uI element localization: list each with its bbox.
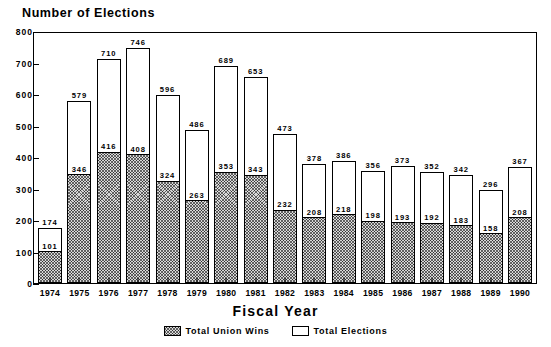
- bar-group: 653343: [244, 33, 268, 283]
- chart-legend: Total Union WinsTotal Elections: [0, 326, 551, 336]
- bar-value-label-wins: 208: [511, 208, 528, 217]
- bar-value-label-total: 689: [219, 56, 234, 65]
- x-axis-tick-label: 1982: [273, 288, 297, 298]
- legend-swatch-hatched: [164, 326, 181, 336]
- x-axis-tick-mark: [138, 278, 139, 283]
- bar-value-label-wins: 101: [41, 242, 58, 251]
- bar-value-label-total: 596: [160, 85, 175, 94]
- x-axis-tick-mark: [255, 278, 256, 283]
- bar-value-label-wins: 193: [394, 213, 411, 222]
- x-axis-tick-mark: [402, 278, 403, 283]
- bar-group: 352192: [420, 33, 444, 283]
- x-axis-tick-label: 1986: [391, 288, 415, 298]
- x-axis-tick-mark: [373, 278, 374, 283]
- bar-union-wins: 232: [273, 210, 297, 283]
- x-axis-tick-label: 1985: [361, 288, 385, 298]
- x-axis-tick-mark: [490, 278, 491, 283]
- bar-union-wins: 208: [508, 217, 532, 283]
- bar-value-label-wins: 416: [100, 142, 117, 151]
- y-axis-tick-label: 100: [0, 248, 33, 258]
- bar-value-label-total: 296: [483, 180, 498, 189]
- bar-value-label-wins: 192: [423, 213, 440, 222]
- bar-union-wins: 198: [361, 221, 385, 283]
- bar-union-wins: 208: [302, 217, 326, 283]
- bar-value-label-total: 486: [189, 120, 204, 129]
- x-axis-tick-label: 1974: [38, 288, 62, 298]
- y-axis-tick-label: 700: [0, 59, 33, 69]
- bar-value-label-total: 473: [277, 124, 292, 133]
- bar-union-wins: 353: [214, 172, 238, 283]
- legend-swatch-white: [292, 326, 309, 336]
- x-axis-tick-label: 1988: [449, 288, 473, 298]
- bar-value-label-wins: 343: [247, 165, 264, 174]
- bar-union-wins: 343: [244, 175, 268, 283]
- bars-container: 1741015793467104167464085963244862636893…: [34, 33, 536, 283]
- bar-group: 296158: [479, 33, 503, 283]
- bar-value-label-wins: 263: [188, 191, 205, 200]
- bar-value-label-total: 579: [72, 91, 87, 100]
- legend-label: Total Elections: [314, 326, 388, 336]
- bar-group: 746408: [126, 33, 150, 283]
- x-axis-tick-label: 1977: [126, 288, 150, 298]
- bar-group: 486263: [185, 33, 209, 283]
- bar-group: 378208: [302, 33, 326, 283]
- bar-group: 596324: [156, 33, 180, 283]
- x-axis-tick-label: 1984: [332, 288, 356, 298]
- bar-value-label-wins: 408: [129, 145, 146, 154]
- bar-union-wins: 416: [97, 152, 121, 283]
- bar-value-label-wins: 183: [453, 216, 470, 225]
- x-axis-tick-mark: [196, 278, 197, 283]
- bar-group: 367208: [508, 33, 532, 283]
- bar-union-wins: 193: [391, 222, 415, 283]
- bar-value-label-wins: 232: [276, 200, 293, 209]
- bar-value-label-total: 378: [307, 154, 322, 163]
- legend-label: Total Union Wins: [186, 326, 270, 336]
- y-axis-tick-label: 600: [0, 90, 33, 100]
- bar-union-wins: 324: [156, 181, 180, 283]
- bar-value-label-wins: 158: [482, 224, 499, 233]
- bar-value-label-total: 710: [101, 49, 116, 58]
- x-axis-tick-labels: 1974197519761977197819791980198119821983…: [34, 288, 536, 298]
- x-axis-tick-label: 1975: [67, 288, 91, 298]
- y-axis-tick-label: 0: [0, 279, 33, 289]
- bar-group: 174101: [38, 33, 62, 283]
- x-axis-tick-label: 1990: [508, 288, 532, 298]
- y-axis-tick-label: 800: [0, 27, 33, 37]
- bar-union-wins: 192: [420, 223, 444, 283]
- x-axis-tick-mark: [285, 278, 286, 283]
- bar-value-label-total: 174: [42, 218, 57, 227]
- bar-value-label-total: 342: [454, 165, 469, 174]
- bar-value-label-wins: 353: [218, 162, 235, 171]
- x-axis-tick-mark: [226, 278, 227, 283]
- bar-group: 579346: [67, 33, 91, 283]
- bar-union-wins: 218: [332, 214, 356, 283]
- x-axis-tick-mark: [167, 278, 168, 283]
- bar-value-label-total: 373: [395, 156, 410, 165]
- x-axis-tick-mark: [343, 278, 344, 283]
- x-axis-tick-label: 1978: [156, 288, 180, 298]
- y-axis-title: Number of Elections: [22, 6, 155, 20]
- y-axis-tick-label: 200: [0, 216, 33, 226]
- x-axis-tick-mark: [79, 278, 80, 283]
- bar-value-label-wins: 218: [335, 205, 352, 214]
- bar-chart: Number of Elections 80070060050040030020…: [0, 0, 551, 347]
- bar-value-label-total: 356: [365, 161, 380, 170]
- x-axis-tick-mark: [520, 278, 521, 283]
- x-axis-title: Fiscal Year: [0, 303, 551, 319]
- bar-union-wins: 346: [67, 174, 91, 283]
- x-axis-tick-label: 1987: [420, 288, 444, 298]
- bar-value-label-total: 653: [248, 67, 263, 76]
- bar-group: 386218: [332, 33, 356, 283]
- x-axis-tick-label: 1981: [244, 288, 268, 298]
- bar-group: 342183: [449, 33, 473, 283]
- x-axis-tick-label: 1980: [214, 288, 238, 298]
- y-axis-tick-label: 400: [0, 153, 33, 163]
- x-axis-tick-label: 1976: [97, 288, 121, 298]
- x-axis-tick-mark: [431, 278, 432, 283]
- bar-value-label-total: 746: [130, 38, 145, 47]
- bar-union-wins: 183: [449, 225, 473, 283]
- legend-item: Total Elections: [292, 326, 388, 336]
- bar-group: 473232: [273, 33, 297, 283]
- bar-value-label-total: 386: [336, 151, 351, 160]
- legend-item: Total Union Wins: [164, 326, 270, 336]
